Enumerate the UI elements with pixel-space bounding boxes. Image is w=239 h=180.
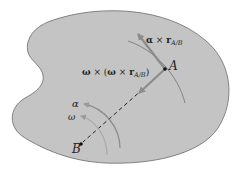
subscript-AB-2: A/B (133, 71, 146, 79)
point-B-label: B (71, 142, 81, 156)
subscript-AB: A/B (170, 39, 183, 47)
point-A-label: A (168, 59, 178, 73)
close-paren: ) (146, 67, 150, 77)
rigid-body-shape (12, 11, 229, 164)
cross-symbol: × (153, 35, 166, 45)
cross-open-paren: × ( (91, 67, 108, 77)
cross-symbol-2: × (116, 67, 129, 77)
rigid-body-diagram: A B α × rA/B ω × (ω × rA/B) α ω (0, 0, 239, 180)
point-A-dot (163, 67, 167, 71)
alpha-symbol: α (146, 35, 153, 45)
omega-label: ω (68, 112, 76, 122)
alpha-label: α (72, 98, 79, 109)
